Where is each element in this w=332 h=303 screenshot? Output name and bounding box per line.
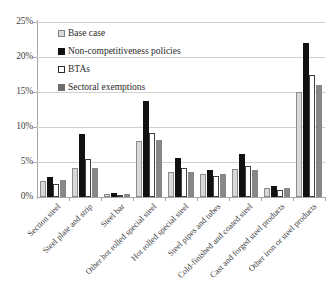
y-axis-labels: 25%20%15%10%5%0%: [0, 22, 33, 197]
x-axis-tick: [293, 197, 294, 201]
legend-swatch-icon: [58, 66, 65, 73]
x-axis-tick: [261, 197, 262, 201]
x-axis-tick: [325, 197, 326, 201]
legend-label: Sectoral exemptions: [68, 82, 145, 92]
chart-legend: Base caseNon-competitiveness policiesBTA…: [58, 24, 228, 96]
x-axis-label-text: Hot rolled special steel: [130, 202, 191, 263]
bar: [149, 133, 155, 197]
legend-item[interactable]: Sectoral exemptions: [58, 78, 228, 96]
legend-swatch-icon: [58, 84, 65, 91]
legend-item[interactable]: Base case: [58, 24, 228, 42]
y-axis-tick-label: 20%: [3, 51, 33, 61]
x-axis-tick: [165, 197, 166, 201]
x-axis-tick: [101, 197, 102, 201]
x-axis-tick: [133, 197, 134, 201]
x-axis-label-text: Other iron or steel products: [247, 202, 318, 273]
bar: [143, 101, 149, 197]
x-axis-tick: [229, 197, 230, 201]
y-axis-tick-label: 25%: [3, 16, 33, 26]
bar: [111, 193, 117, 197]
x-axis-category-labels: Section steelSteel plate and stripSteel …: [0, 198, 332, 303]
x-axis-tick: [197, 197, 198, 201]
y-axis-tick-label: 10%: [3, 121, 33, 131]
legend-label: BTAs: [68, 64, 90, 74]
legend-label: Non-competitiveness policies: [68, 46, 181, 56]
bar: [53, 184, 59, 197]
x-axis-tick: [69, 197, 70, 201]
bar: [277, 190, 283, 197]
y-axis-tick-label: 5%: [3, 156, 33, 166]
legend-swatch-icon: [58, 48, 65, 55]
legend-item[interactable]: BTAs: [58, 60, 228, 78]
y-axis-tick-label: 15%: [3, 86, 33, 96]
bar: [40, 181, 46, 197]
legend-item[interactable]: Non-competitiveness policies: [58, 42, 228, 60]
bar: [117, 195, 123, 197]
bar: [47, 177, 53, 197]
x-axis-label-text: Steel bar: [99, 202, 126, 229]
legend-swatch-icon: [58, 30, 65, 37]
bar-chart: 25%20%15%10%5%0% Base caseNon-competitiv…: [0, 0, 332, 303]
bar: [156, 140, 162, 197]
legend-label: Base case: [68, 28, 105, 38]
